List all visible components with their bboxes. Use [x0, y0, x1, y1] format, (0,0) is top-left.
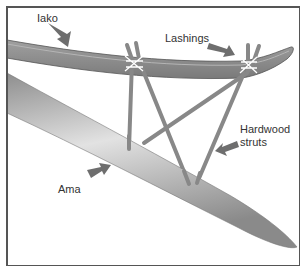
label-ama: Ama: [58, 183, 81, 195]
iako-beam: [7, 40, 293, 79]
label-lashings: Lashings: [165, 32, 209, 44]
arrow-struts: [215, 141, 239, 156]
diagram-frame: Iako Lashings Hardwood struts Ama: [6, 6, 300, 266]
ama-hull: [7, 73, 297, 248]
arrow-iako: [48, 23, 71, 47]
arrow-ama: [87, 163, 111, 178]
label-hardwood: Hardwood: [240, 123, 290, 135]
label-iako: Iako: [37, 12, 58, 24]
label-struts: struts: [240, 136, 267, 148]
arrow-lashings: [207, 43, 235, 57]
